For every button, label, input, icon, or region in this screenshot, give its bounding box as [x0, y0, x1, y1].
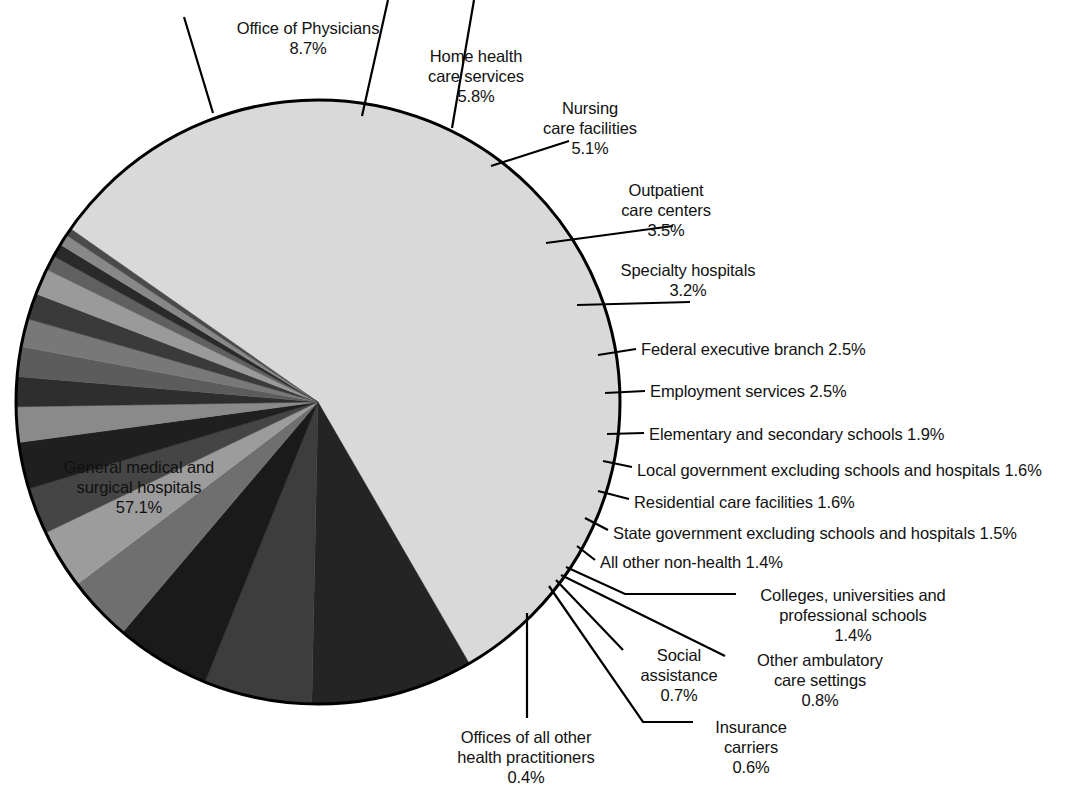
pie-label-line: All other non-health 1.4% — [600, 552, 880, 572]
pie-label-line: professional schools — [743, 605, 963, 625]
pie-label-nursing-care-facilities: Nursingcare facilities5.1% — [528, 98, 652, 158]
pie-label-line: Offices of all other — [443, 727, 609, 747]
pie-label-state-government-excluding-schools-and-hospitals: State government excluding schools and h… — [613, 523, 1083, 543]
pie-label-elementary-and-secondary-schools: Elementary and secondary schools 1.9% — [649, 424, 1009, 444]
pie-label-line: 0.7% — [629, 685, 729, 705]
pie-label-line: care facilities — [528, 118, 652, 138]
pie-label-line: assistance — [629, 665, 729, 685]
pie-label-line: Colleges, universities and — [743, 585, 963, 605]
pie-label-line: Employment services 2.5% — [650, 381, 910, 401]
pie-label-federal-executive-branch: Federal executive branch 2.5% — [641, 339, 921, 359]
pie-label-line: Residential care facilities 1.6% — [634, 492, 954, 512]
pie-label-line: surgical hospitals — [46, 477, 232, 497]
pie-label-other-ambulatory-care-settings: Other ambulatorycare settings0.8% — [739, 650, 901, 710]
pie-label-line: Elementary and secondary schools 1.9% — [649, 424, 1009, 444]
pie-label-line: Social — [629, 645, 729, 665]
pie-slices — [16, 100, 620, 704]
pie-label-line: health practitioners — [443, 747, 609, 767]
pie-label-line: care services — [410, 66, 542, 86]
pie-label-line: care settings — [739, 670, 901, 690]
pie-label-home-health-care-services: Home healthcare services5.8% — [410, 46, 542, 106]
pie-label-line: Outpatient — [604, 180, 728, 200]
pie-label-line: General medical and — [46, 457, 232, 477]
pie-label-all-other-non-health: All other non-health 1.4% — [600, 552, 880, 572]
pie-label-line: 1.4% — [743, 625, 963, 645]
pie-label-line: 0.8% — [739, 690, 901, 710]
pie-label-line: Federal executive branch 2.5% — [641, 339, 921, 359]
pie-label-line: 3.2% — [612, 280, 764, 300]
pie-label-offices-of-all-other-health-practitioners: Offices of all otherhealth practitioners… — [443, 727, 609, 787]
pie-label-line: Specialty hospitals — [612, 260, 764, 280]
pie-label-employment-services: Employment services 2.5% — [650, 381, 910, 401]
pie-label-general-medical-and-surgical-hospitals: General medical andsurgical hospitals57.… — [46, 457, 232, 517]
pie-label-line: Nursing — [528, 98, 652, 118]
pie-label-line: 8.7% — [224, 38, 392, 58]
pie-label-line: Insurance — [699, 717, 803, 737]
pie-label-line: Home health — [410, 46, 542, 66]
leader-elementary-and-secondary-schools — [607, 433, 644, 434]
pie-label-line: Local government excluding schools and h… — [637, 460, 1091, 480]
leader-other-ambulatory — [561, 575, 725, 656]
pie-label-line: State government excluding schools and h… — [613, 523, 1083, 543]
pie-label-line: 0.6% — [699, 757, 803, 777]
pie-label-social-assistance: Socialassistance0.7% — [629, 645, 729, 705]
pie-label-line: 0.4% — [443, 767, 609, 787]
pie-label-line: Office of Physicians — [224, 18, 392, 38]
leader-office-of-physicians — [184, 17, 213, 113]
pie-label-residential-care-facilities: Residential care facilities 1.6% — [634, 492, 954, 512]
pie-label-line: 57.1% — [46, 497, 232, 517]
pie-label-insurance-carriers: Insurancecarriers0.6% — [699, 717, 803, 777]
pie-label-outpatient-care-centers: Outpatientcare centers3.5% — [604, 180, 728, 240]
pie-chart-figure: Office of Physicians8.7%Home healthcare … — [0, 0, 1091, 789]
pie-label-line: 5.1% — [528, 138, 652, 158]
pie-label-line: 3.5% — [604, 220, 728, 240]
pie-label-line: care centers — [604, 200, 728, 220]
pie-label-line: Other ambulatory — [739, 650, 901, 670]
pie-label-local-government-excluding-schools-and-hospitals: Local government excluding schools and h… — [637, 460, 1091, 480]
pie-label-office-of-physicians: Office of Physicians8.7% — [224, 18, 392, 58]
pie-label-specialty-hospitals: Specialty hospitals3.2% — [612, 260, 764, 300]
pie-label-line: 5.8% — [410, 86, 542, 106]
pie-label-colleges-universities-and-professional-schools: Colleges, universities andprofessional s… — [743, 585, 963, 645]
leader-social-assistance — [556, 580, 623, 650]
pie-label-line: carriers — [699, 737, 803, 757]
